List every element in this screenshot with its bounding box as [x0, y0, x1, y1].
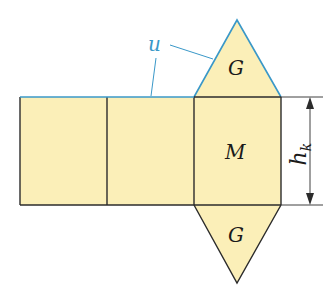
label-perimeter-u: u [148, 32, 161, 56]
label-bottom-base-g: G [228, 223, 244, 247]
label-height-hk: hk [286, 134, 314, 174]
lateral-face-1 [20, 97, 107, 205]
prism-net-diagram [0, 0, 323, 301]
lateral-face-2 [107, 97, 194, 205]
label-height-k: k [298, 143, 314, 151]
label-top-base-g: G [228, 56, 244, 80]
label-height-h: h [286, 151, 311, 165]
label-lateral-m: M [225, 140, 245, 164]
